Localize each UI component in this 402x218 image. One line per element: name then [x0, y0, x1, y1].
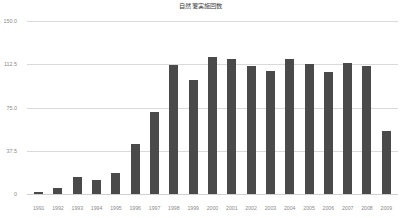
x-axis-tick-label: 2002	[245, 205, 257, 211]
bar[interactable]	[131, 144, 140, 194]
x-label-slot: 2002	[241, 196, 260, 214]
bar-slot	[338, 21, 357, 194]
bar[interactable]	[34, 192, 43, 194]
y-axis-tick-label: 150.0	[0, 18, 17, 24]
x-axis-tick-label: 2000	[207, 205, 219, 211]
chart-title: 自然薯実施回数	[0, 2, 402, 10]
bar-slot	[68, 21, 87, 194]
x-label-slot: 2008	[357, 196, 376, 214]
x-axis-tick-label: 1998	[168, 205, 180, 211]
bar-slot	[29, 21, 48, 194]
x-label-slot: 1994	[87, 196, 106, 214]
bar-slot	[299, 21, 318, 194]
plot-area: 037.575.0112.5150.0	[27, 21, 398, 194]
x-label-slot: 2003	[261, 196, 280, 214]
x-label-slot: 1997	[145, 196, 164, 214]
bar[interactable]	[150, 112, 159, 194]
bar-slot	[377, 21, 396, 194]
bar[interactable]	[227, 59, 236, 194]
bar-slot	[222, 21, 241, 194]
x-axis-tick-label: 2005	[303, 205, 315, 211]
bar-slot	[87, 21, 106, 194]
bar[interactable]	[362, 66, 371, 194]
bar[interactable]	[343, 63, 352, 194]
x-axis-tick-label: 1994	[91, 205, 103, 211]
bar[interactable]	[305, 64, 314, 194]
x-axis-tick-label: 1995	[110, 205, 122, 211]
x-axis-tick-label: 1999	[187, 205, 199, 211]
x-axis-tick-label: 2009	[381, 205, 393, 211]
x-axis-tick-label: 2008	[361, 205, 373, 211]
x-axis-tick-label: 2006	[323, 205, 335, 211]
x-label-slot: 1996	[126, 196, 145, 214]
y-axis-tick-label: 112.5	[0, 61, 17, 67]
bar[interactable]	[53, 188, 62, 194]
x-label-slot: 2007	[338, 196, 357, 214]
bar-slot	[126, 21, 145, 194]
bar[interactable]	[285, 59, 294, 194]
bar-slot	[241, 21, 260, 194]
bar-slot	[184, 21, 203, 194]
bar-slot	[164, 21, 183, 194]
x-label-slot: 1995	[106, 196, 125, 214]
bar[interactable]	[208, 57, 217, 194]
x-label-slot: 2006	[319, 196, 338, 214]
bar[interactable]	[92, 180, 101, 194]
x-axis-tick-label: 1992	[52, 205, 64, 211]
x-axis-tick-label: 2007	[342, 205, 354, 211]
x-label-slot: 2000	[203, 196, 222, 214]
bar-slot	[203, 21, 222, 194]
bar-slot	[280, 21, 299, 194]
y-axis-tick-label: 0	[0, 191, 17, 197]
x-axis-tick-label: 1993	[72, 205, 84, 211]
x-axis-tick-label: 1997	[149, 205, 161, 211]
bar[interactable]	[382, 131, 391, 194]
x-label-slot: 1992	[48, 196, 67, 214]
x-axis-tick-label: 1991	[33, 205, 45, 211]
x-label-slot: 2004	[280, 196, 299, 214]
x-axis-tick-label: 2004	[284, 205, 296, 211]
x-axis-tick-labels: 1991199219931994199519961997199819992000…	[27, 196, 398, 214]
y-axis-tick-label: 37.5	[0, 148, 17, 154]
x-label-slot: 2009	[377, 196, 396, 214]
bar-slot	[357, 21, 376, 194]
x-label-slot: 2001	[222, 196, 241, 214]
bar-series	[27, 21, 398, 194]
x-label-slot: 1999	[184, 196, 203, 214]
bar-slot	[145, 21, 164, 194]
gridline	[27, 194, 398, 195]
x-label-slot: 1998	[164, 196, 183, 214]
x-label-slot: 1991	[29, 196, 48, 214]
bar[interactable]	[266, 71, 275, 194]
bar-chart: 自然薯実施回数 037.575.0112.5150.0 199119921993…	[0, 0, 402, 218]
bar[interactable]	[247, 66, 256, 194]
x-label-slot: 2005	[299, 196, 318, 214]
bar-slot	[106, 21, 125, 194]
bar[interactable]	[189, 80, 198, 194]
bar[interactable]	[169, 65, 178, 194]
bar[interactable]	[324, 72, 333, 194]
bar[interactable]	[111, 173, 120, 194]
bar[interactable]	[73, 177, 82, 194]
x-axis-tick-label: 2003	[265, 205, 277, 211]
x-axis-tick-label: 1996	[129, 205, 141, 211]
bar-slot	[261, 21, 280, 194]
x-label-slot: 1993	[68, 196, 87, 214]
x-axis-tick-label: 2001	[226, 205, 238, 211]
y-axis-tick-label: 75.0	[0, 105, 17, 111]
bar-slot	[319, 21, 338, 194]
bar-slot	[48, 21, 67, 194]
